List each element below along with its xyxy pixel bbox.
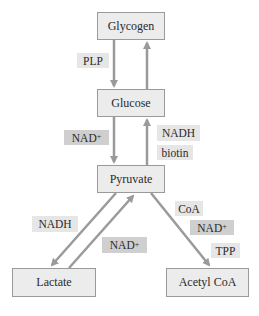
cofactor-nad-plus-glucose: NAD+ <box>64 130 109 145</box>
cofactor-text: TPP <box>216 245 236 257</box>
node-label: Glycogen <box>108 19 155 34</box>
cofactor-superscript: + <box>135 240 140 249</box>
cofactor-nadh-gluconeogenesis: NADH <box>157 125 200 141</box>
cofactor-text: PLP <box>83 55 103 67</box>
cofactor-nad-plus-acetyl: NAD+ <box>190 220 234 235</box>
node-pyruvate: Pyruvate <box>97 165 165 193</box>
cofactor-coa: CoA <box>175 201 203 216</box>
node-glucose: Glucose <box>97 89 165 117</box>
cofactor-nad-plus-lactate: NAD+ <box>102 237 147 253</box>
cofactor-text: NAD <box>72 132 97 144</box>
cofactor-superscript: + <box>222 222 227 231</box>
cofactor-text: NADH <box>162 127 195 139</box>
cofactor-nadh-lactate: NADH <box>32 216 78 232</box>
cofactor-text: NADH <box>38 218 71 230</box>
node-acetyl-coa: Acetyl CoA <box>166 268 249 297</box>
cofactor-text: NAD <box>110 239 135 251</box>
arrow-lactate-to-pyruvate <box>69 196 133 268</box>
node-label: Pyruvate <box>110 172 153 187</box>
node-label: Glucose <box>111 96 150 111</box>
cofactor-text: NAD <box>197 222 222 234</box>
node-lactate: Lactate <box>12 268 96 297</box>
cofactor-text: CoA <box>178 203 200 215</box>
cofactor-tpp: TPP <box>211 243 240 258</box>
cofactor-text: biotin <box>162 147 189 159</box>
cofactor-biotin: biotin <box>157 145 193 160</box>
cofactor-plp: PLP <box>77 53 109 68</box>
cofactor-superscript: + <box>97 132 102 141</box>
node-label: Lactate <box>36 275 71 290</box>
node-glycogen: Glycogen <box>97 12 165 40</box>
node-label: Acetyl CoA <box>179 275 237 290</box>
